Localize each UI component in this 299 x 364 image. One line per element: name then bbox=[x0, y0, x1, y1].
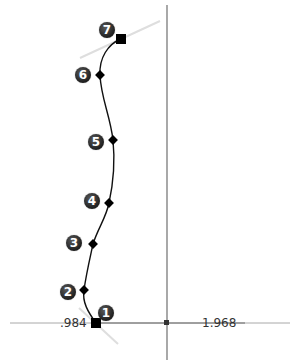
point-badge-6: 6 bbox=[75, 67, 91, 83]
fit-point-diamond-4[interactable] bbox=[104, 198, 114, 208]
point-badge-5: 5 bbox=[88, 134, 104, 150]
point-badge-2: 2 bbox=[60, 284, 76, 300]
point-badge-4: 4 bbox=[84, 193, 100, 209]
point-badge-3: 3 bbox=[66, 235, 82, 251]
endpoint-square-7[interactable] bbox=[116, 34, 126, 44]
fit-point-diamond-3[interactable] bbox=[88, 239, 98, 249]
fit-point-diamond-5[interactable] bbox=[108, 135, 118, 145]
origin-point[interactable] bbox=[164, 320, 169, 325]
dimension-label-right[interactable]: 1.968 bbox=[202, 317, 236, 329]
endpoint-square-1[interactable] bbox=[91, 318, 101, 328]
fit-point-diamond-2[interactable] bbox=[79, 285, 89, 295]
spline-curve[interactable] bbox=[84, 39, 121, 323]
dimension-label-left[interactable]: .984 bbox=[60, 317, 87, 329]
fit-point-diamond-6[interactable] bbox=[95, 70, 105, 80]
sketch-canvas[interactable] bbox=[0, 0, 299, 364]
point-badge-7: 7 bbox=[99, 22, 115, 38]
point-badge-1: 1 bbox=[98, 305, 114, 321]
